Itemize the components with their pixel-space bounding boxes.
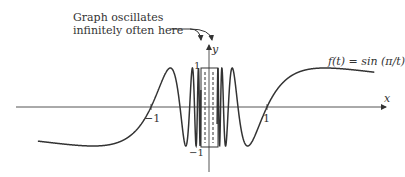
function-label: f(t) = sin (π/t) xyxy=(328,55,405,68)
tick-label-y-pos1: 1 xyxy=(194,59,200,72)
annotation-line1: Graph oscillates xyxy=(73,11,163,24)
tick-label-x-pos1: 1 xyxy=(263,112,270,125)
y-axis-label: y xyxy=(212,43,218,56)
tick-label-y-neg1: −1 xyxy=(189,146,204,159)
tick-label-x-neg1: −1 xyxy=(144,112,160,125)
annotation-line2: infinitely often here xyxy=(73,24,183,37)
x-axis-label: x xyxy=(384,92,390,105)
